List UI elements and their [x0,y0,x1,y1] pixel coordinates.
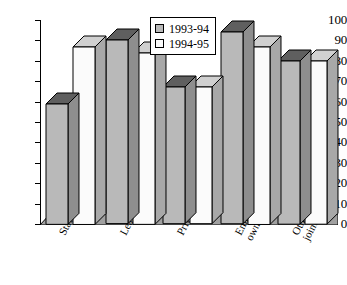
bar-state-1993-94 [46,93,79,224]
y-tick-label: 100 [313,13,347,26]
y-tick-mark [35,102,40,103]
legend-swatch-1994-95 [155,39,164,48]
bar-leasehold-1993-94 [106,29,139,224]
legend-item-1994-95: 1994-95 [155,36,209,51]
legend-label-1994-95: 1994-95 [169,38,209,50]
bar-other-joint-stock-1993-94 [278,50,311,224]
y-tick-mark [35,40,40,41]
legend-item-1993-94: 1993-94 [155,21,209,36]
legend-label-1993-94: 1993-94 [169,23,209,35]
y-tick-mark [35,122,40,123]
bar-private-1993-94 [163,76,196,224]
y-tick-mark [35,163,40,164]
legend-swatch-1993-94 [155,24,164,33]
y-tick-mark [35,183,40,184]
bar-chart: 1009080706050403020100 1993-94 1994-95 S… [0,0,347,285]
y-tick-mark [35,61,40,62]
y-tick-mark [35,81,40,82]
y-axis-line [40,20,41,225]
bar-employee-owned-1993-94 [221,21,254,224]
y-tick-mark [35,142,40,143]
legend: 1993-94 1994-95 [150,17,216,55]
y-tick-label: 90 [313,33,347,46]
y-tick-mark [35,20,40,21]
y-tick-mark [35,204,40,205]
